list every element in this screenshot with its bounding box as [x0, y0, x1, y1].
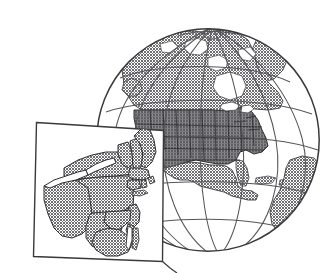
callout-leader-line — [163, 262, 178, 273]
illustration-root: Globe with North America and Northeaster… — [0, 0, 331, 273]
state-rhode-island — [141, 180, 147, 188]
state-massachusetts — [128, 168, 150, 180]
state-connecticut — [127, 180, 141, 190]
figure-canvas — [0, 0, 331, 273]
inset-map — [34, 123, 178, 273]
